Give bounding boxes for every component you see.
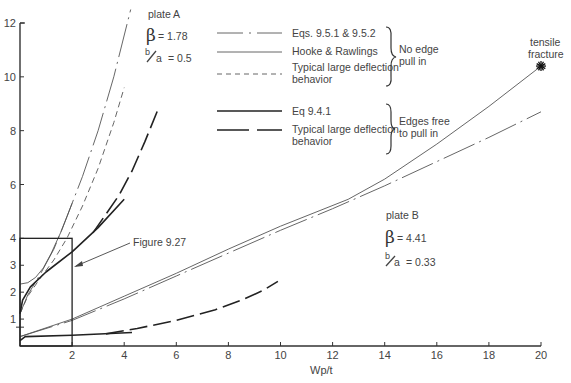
plate-b-ratio-num: b [385, 251, 390, 261]
fracture-marker [536, 61, 546, 71]
legend-label-typical-free-2: behavior [292, 135, 333, 147]
plate-b-beta-symbol: β [385, 227, 395, 247]
plate-b-ratio-den: a [394, 256, 400, 268]
y-ticks: 1234681012 [4, 17, 24, 327]
x-tick-label: 14 [379, 349, 391, 361]
plate-b-beta-value: = 4.41 [397, 232, 427, 244]
fracture-label-1: tensile [530, 36, 561, 48]
x-tick-label: 8 [225, 349, 231, 361]
x-tick-label: 12 [326, 349, 338, 361]
legend-label-eqs-951: Eqs. 9.5.1 & 9.5.2 [292, 27, 376, 39]
series-line-8 [106, 281, 278, 334]
figure-ref-arrow-line [76, 243, 130, 266]
plate-a-ratio-value: = 0.5 [168, 52, 192, 64]
legend-label-typical-free: Typical large deflection [292, 123, 399, 135]
x-tick-label: 2 [69, 349, 75, 361]
x-ticks: 2468101214161820 [69, 342, 547, 361]
fracture-label-2: fracture [528, 48, 564, 60]
legend-label-typical-nopull-2: behavior [292, 73, 333, 85]
series-line-0 [20, 10, 131, 314]
plate-a-beta-symbol: β [146, 25, 156, 45]
figure-ref-arrow-head [74, 261, 83, 267]
legend-label-eq-941: Eq 9.4.1 [292, 105, 331, 117]
x-tick-label: 10 [274, 349, 286, 361]
series-line-5 [20, 66, 541, 337]
brace-no-pull [386, 27, 396, 86]
x-tick-label: 18 [483, 349, 495, 361]
group-label-free-1: Edges free [399, 115, 450, 127]
x-tick-label: 16 [431, 349, 443, 361]
legend-label-hooke: Hooke & Rawlings [292, 45, 378, 57]
chart: 2468101214161820 1234681012 Wp/t plate A… [0, 0, 571, 383]
x-axis-label: Wp/t [310, 364, 333, 376]
axes [20, 23, 541, 346]
y-tick-label: 6 [10, 179, 16, 191]
plate-a-beta-value: = 1.78 [158, 30, 188, 42]
x-tick-label: 20 [535, 349, 547, 361]
y-tick-label: 1 [10, 313, 16, 325]
group-label-no-pull-2: pull in [399, 55, 427, 67]
plate-a-ratio-num: b [145, 47, 150, 57]
group-label-free-2: to pull in [399, 127, 438, 139]
plate-a-ratio-den: a [156, 52, 162, 64]
plate-a-label: plate A [148, 8, 180, 20]
series-line-4 [93, 109, 158, 233]
group-label-no-pull-1: No edge [399, 43, 439, 55]
figure-ref-label: Figure 9.27 [133, 236, 186, 248]
y-tick-label: 3 [10, 259, 16, 271]
x-tick-label: 6 [173, 349, 179, 361]
legend-label-typical-nopull: Typical large deflection [292, 61, 399, 73]
plate-b-ratio-value: = 0.33 [406, 256, 436, 268]
x-tick-label: 4 [121, 349, 127, 361]
y-tick-label: 4 [10, 232, 16, 244]
series-group [20, 10, 541, 341]
series-line-7 [20, 333, 132, 341]
y-tick-label: 2 [10, 286, 16, 298]
y-tick-label: 10 [4, 71, 16, 83]
plate-b-label: plate B [386, 209, 419, 221]
legend: Eqs. 9.5.1 & 9.5.2 Hooke & Rawlings Typi… [217, 27, 450, 154]
y-tick-label: 8 [10, 125, 16, 137]
y-tick-label: 12 [4, 17, 16, 29]
